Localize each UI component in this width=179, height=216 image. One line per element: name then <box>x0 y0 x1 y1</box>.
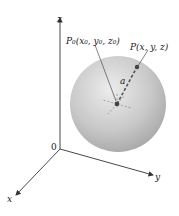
surface-point-label: P(x, y, z) <box>129 42 169 52</box>
y-axis-label: y <box>154 172 161 182</box>
x-axis <box>16 149 60 195</box>
center-point <box>115 102 120 107</box>
sphere-diagram: z y x 0 P₀(x₀, y₀, z₀) P(x, y, z) a <box>0 0 179 216</box>
radius-label: a <box>120 76 125 86</box>
origin-label: 0 <box>51 142 57 152</box>
x-axis-label: x <box>7 194 12 204</box>
center-point-label: P₀(x₀, y₀, z₀) <box>65 36 120 46</box>
y-axis <box>60 149 153 175</box>
z-axis-label: z <box>56 14 62 24</box>
surface-point <box>135 65 139 69</box>
